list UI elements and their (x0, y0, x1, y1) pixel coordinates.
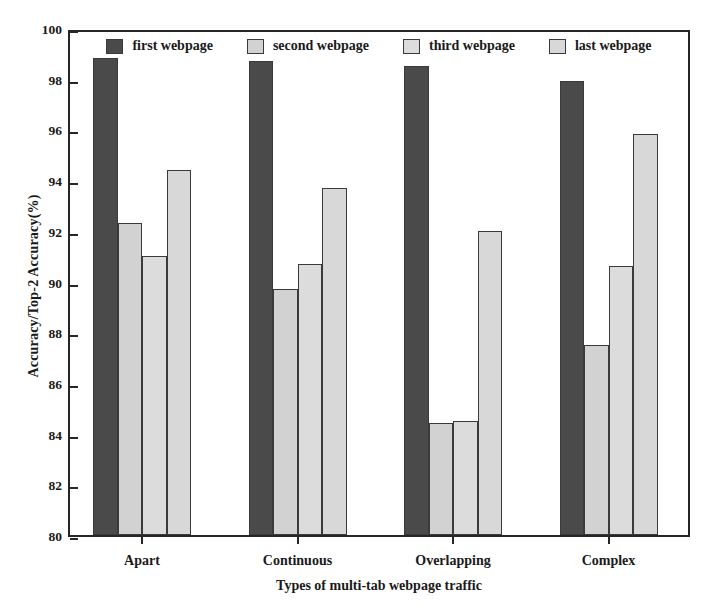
y-tick-mark (70, 183, 78, 185)
legend-swatch-icon (403, 39, 420, 54)
legend-item-first[interactable]: first webpage (106, 38, 213, 54)
bar-complex-first (560, 81, 585, 535)
bar-continuous-third (298, 264, 323, 535)
y-tick-label: 90 (24, 276, 62, 292)
bar-overlapping-third (453, 421, 478, 535)
y-tick-label: 100 (24, 22, 62, 38)
legend-label: second webpage (273, 38, 369, 54)
y-tick-mark (70, 386, 78, 388)
bar-chart-figure: Accuracy/Top-2 Accuracy(%) 8082848688909… (0, 0, 714, 608)
y-tick-label: 82 (24, 478, 62, 494)
bar-apart-third (142, 256, 167, 535)
y-tick-mark (70, 132, 78, 134)
legend-label: first webpage (132, 38, 213, 54)
y-tick-mark (70, 82, 78, 84)
x-tick-mark (141, 535, 143, 544)
y-tick-mark (70, 487, 78, 489)
x-tick-mark (297, 535, 299, 544)
bar-continuous-second (273, 289, 298, 535)
y-tick-label: 84 (24, 428, 62, 444)
bar-overlapping-second (429, 423, 454, 535)
bar-complex-third (609, 266, 634, 535)
y-tick-label: 92 (24, 225, 62, 241)
legend-swatch-icon (549, 39, 566, 54)
y-tick-label: 80 (24, 529, 62, 545)
bar-overlapping-first (404, 66, 429, 535)
x-axis-title: Types of multi-tab webpage traffic (68, 578, 690, 594)
x-tick-label: Continuous (218, 553, 378, 569)
y-tick-mark (70, 285, 78, 287)
legend-item-third[interactable]: third webpage (403, 38, 515, 54)
y-tick-mark (70, 234, 78, 236)
bar-continuous-first (249, 61, 274, 535)
y-tick-label: 94 (24, 174, 62, 190)
y-tick-mark (70, 437, 78, 439)
x-tick-label: Complex (529, 553, 689, 569)
legend-swatch-icon (106, 39, 123, 54)
y-tick-label: 96 (24, 123, 62, 139)
bar-apart-first (93, 58, 118, 535)
x-tick-label: Apart (62, 553, 222, 569)
legend-label: last webpage (575, 38, 652, 54)
bar-continuous-last (322, 188, 347, 535)
bar-apart-second (118, 223, 143, 535)
legend-swatch-icon (247, 39, 264, 54)
bar-overlapping-last (478, 231, 503, 535)
legend-item-last[interactable]: last webpage (549, 38, 652, 54)
bar-complex-second (584, 345, 609, 535)
bar-complex-last (633, 134, 658, 535)
legend-item-second[interactable]: second webpage (247, 38, 369, 54)
legend-label: third webpage (429, 38, 515, 54)
chart-legend: first webpagesecond webpagethird webpage… (70, 38, 688, 54)
y-tick-mark (70, 538, 78, 540)
y-tick-label: 86 (24, 377, 62, 393)
x-tick-label: Overlapping (373, 553, 533, 569)
x-tick-mark (452, 535, 454, 544)
y-tick-label: 98 (24, 73, 62, 89)
y-tick-mark (70, 335, 78, 337)
x-tick-mark (608, 535, 610, 544)
y-tick-label: 88 (24, 326, 62, 342)
bar-apart-last (167, 170, 192, 535)
y-tick-mark (70, 31, 78, 33)
plot-area: 80828486889092949698100 ApartContinuousO… (68, 30, 690, 537)
